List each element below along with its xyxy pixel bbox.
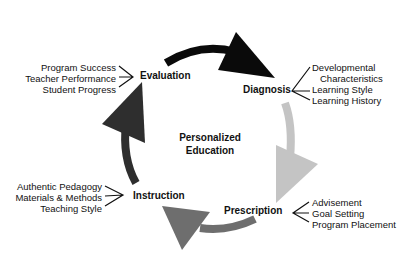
evaluation-item: Student Progress	[10, 84, 116, 95]
stage-diagnosis: Diagnosis	[243, 84, 291, 95]
arrow-diagnosis-to-prescription	[276, 103, 318, 203]
stage-prescription: Prescription	[224, 205, 282, 216]
diagnosis-items: Developmental Characteristics Learning S…	[312, 62, 383, 106]
prescription-item: Goal Setting	[312, 208, 396, 219]
instruction-items: Authentic Pedagogy Materials & Methods T…	[6, 181, 102, 214]
arrow-instruction-to-evaluation	[102, 82, 145, 183]
stage-evaluation: Evaluation	[140, 70, 191, 81]
diagnosis-item: Characteristics	[312, 73, 383, 84]
diagnosis-item: Learning History	[312, 95, 383, 106]
diagnosis-item: Learning Style	[312, 84, 383, 95]
prescription-item: Program Placement	[312, 219, 396, 230]
prescription-items: Advisement Goal Setting Program Placemen…	[312, 197, 396, 230]
diagnosis-item: Developmental	[312, 62, 383, 73]
instruction-item: Authentic Pedagogy	[6, 181, 102, 192]
center-title-line2: Education	[160, 144, 260, 157]
evaluation-item: Teacher Performance	[10, 73, 116, 84]
center-title-line1: Personalized	[160, 131, 260, 144]
instruction-item: Materials & Methods	[6, 192, 102, 203]
stage-instruction: Instruction	[133, 190, 185, 201]
evaluation-item: Program Success	[10, 62, 116, 73]
prescription-item: Advisement	[312, 197, 396, 208]
instruction-item: Teaching Style	[6, 203, 102, 214]
center-title: Personalized Education	[160, 131, 260, 157]
evaluation-items: Program Success Teacher Performance Stud…	[10, 62, 116, 95]
